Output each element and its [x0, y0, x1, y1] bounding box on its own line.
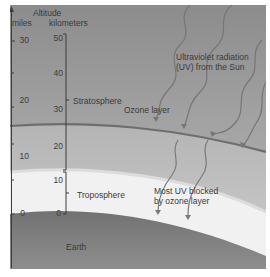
blocked-label-line1: Most UV blocked: [154, 187, 218, 196]
km-tick-0: 0: [45, 209, 61, 218]
miles-tick-30: 30: [13, 36, 29, 45]
atmosphere-illustration: [10, 5, 266, 269]
stratosphere-label: Stratosphere: [73, 97, 122, 106]
miles-tick-10: 10: [13, 152, 29, 161]
km-tick-50: 50: [47, 34, 63, 43]
troposphere-label: Troposphere: [77, 191, 125, 200]
uv-label-line1: Ultraviolet radiation: [176, 53, 249, 62]
km-tick-20: 20: [47, 142, 63, 151]
blocked-label-line2: by ozone layer: [154, 197, 209, 206]
km-tick-30: 30: [47, 105, 63, 114]
axis-title: Altitude: [33, 9, 61, 18]
km-unit-label: kilometers: [49, 19, 88, 28]
ozone-layer-label: Ozone layer: [124, 106, 170, 115]
atmosphere-diagram: Altitude miles kilometers 30 20 10 0 50 …: [10, 5, 266, 269]
miles-tick-20: 20: [13, 96, 29, 105]
miles-unit-label: miles: [12, 19, 32, 28]
km-tick-10: 10: [47, 176, 63, 185]
miles-tick-0: 0: [10, 209, 25, 218]
km-tick-40: 40: [47, 69, 63, 78]
earth-label: Earth: [66, 243, 86, 252]
uv-label-line2: (UV) from the Sun: [176, 63, 245, 72]
